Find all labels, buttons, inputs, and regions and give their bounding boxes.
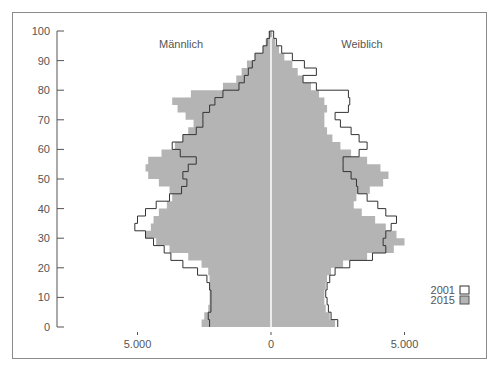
x-tick-label: 0	[268, 338, 274, 350]
female-side-label: Weiblich	[341, 38, 382, 50]
population-pyramid-chart: 0102030405060708090100 5.00005.000 Männl…	[0, 0, 492, 368]
y-tick-label: 40	[38, 203, 50, 215]
y-tick-label: 20	[38, 262, 50, 274]
y-tick-label: 30	[38, 232, 50, 244]
y-tick-label: 80	[38, 84, 50, 96]
legend-swatch-2015	[460, 296, 469, 304]
y-tick-label: 10	[38, 291, 50, 303]
x-axis: 5.00005.000	[124, 332, 419, 350]
legend-swatch-2001	[460, 286, 469, 294]
male-side-label: Männlich	[159, 38, 203, 50]
legend-label-2015: 2015	[431, 294, 455, 306]
y-tick-label: 100	[32, 25, 50, 37]
y-tick-label: 0	[44, 321, 50, 333]
y-tick-label: 60	[38, 143, 50, 155]
y-axis: 0102030405060708090100	[32, 25, 64, 333]
y-tick-label: 50	[38, 173, 50, 185]
x-tick-label: 5.000	[124, 338, 152, 350]
x-tick-label: 5.000	[391, 338, 419, 350]
y-tick-label: 70	[38, 114, 50, 126]
y-tick-label: 90	[38, 55, 50, 67]
legend: 20012015	[431, 284, 469, 306]
